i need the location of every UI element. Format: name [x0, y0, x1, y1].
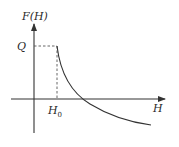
h0-label-sub: 0 [58, 111, 62, 119]
q-label: Q [17, 40, 26, 53]
h0-label-base: H [47, 104, 58, 117]
f-h-curve [57, 46, 151, 125]
x-axis-label: H [152, 102, 163, 115]
y-axis-label: F(H) [21, 10, 48, 23]
h0-label: H0 [47, 104, 62, 119]
diagram-canvas: F(H) Q H0 H [0, 0, 179, 147]
